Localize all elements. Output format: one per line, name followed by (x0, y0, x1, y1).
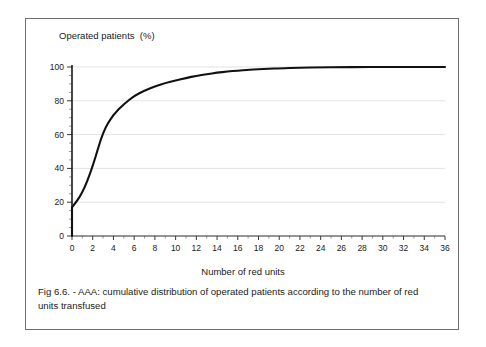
x-tick-label: 14 (212, 243, 222, 253)
x-tick-label: 36 (440, 243, 450, 253)
x-tick-label: 24 (316, 243, 326, 253)
x-tick-label: 8 (153, 243, 158, 253)
y-tick-label: 80 (55, 96, 65, 106)
x-major-ticks (72, 236, 445, 240)
x-tick-label: 0 (70, 243, 75, 253)
x-tick-label: 18 (254, 243, 264, 253)
y-tick-labels: 020406080100 (50, 62, 64, 241)
y-tick-label: 0 (59, 231, 64, 241)
x-tick-label: 10 (171, 243, 181, 253)
y-tick-label: 40 (55, 163, 65, 173)
x-tick-labels: 024681012141618202224262830323436 (70, 243, 450, 253)
x-tick-label: 34 (420, 243, 430, 253)
chart-area: Operated patients (%) 020406080100 02468… (26, 19, 460, 269)
figure-frame: Operated patients (%) 020406080100 02468… (25, 18, 459, 330)
x-tick-label: 32 (399, 243, 409, 253)
x-tick-label: 12 (192, 243, 202, 253)
y-tick-label: 100 (50, 62, 64, 72)
x-tick-label: 20 (274, 243, 284, 253)
figure-caption: Fig 6.6. - AAA: cumulative distribution … (38, 285, 438, 313)
x-tick-label: 30 (378, 243, 388, 253)
x-tick-label: 6 (132, 243, 137, 253)
x-tick-label: 4 (111, 243, 116, 253)
grid-lines (72, 67, 445, 236)
x-tick-label: 22 (295, 243, 305, 253)
x-tick-label: 2 (90, 243, 95, 253)
data-series-line (72, 67, 445, 236)
y-tick-label: 20 (55, 197, 65, 207)
x-tick-label: 26 (337, 243, 347, 253)
x-tick-label: 16 (233, 243, 243, 253)
y-tick-label: 60 (55, 130, 65, 140)
plot-svg: 020406080100 024681012141618202224262830… (26, 19, 460, 269)
x-tick-label: 28 (357, 243, 367, 253)
x-axis-title: Number of red units (26, 266, 460, 277)
